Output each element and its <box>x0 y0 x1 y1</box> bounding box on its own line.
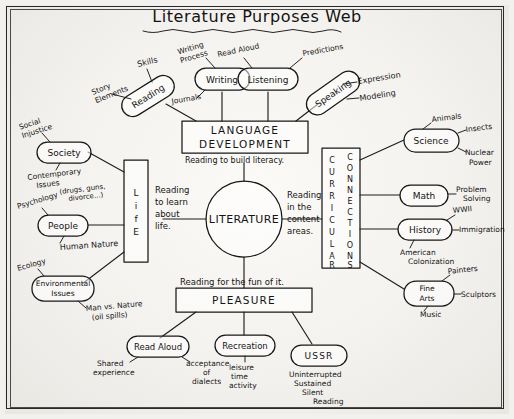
hub-pleasure-label: PLEASURE <box>212 294 276 306</box>
edge-history-wwii <box>447 215 455 220</box>
sat-journals: Journals <box>170 92 202 106</box>
hub-curricular-i: I <box>331 204 333 213</box>
edge-pleasure-read-aloud <box>160 312 196 338</box>
hub-connections-c: C <box>347 153 353 162</box>
hub-life[interactable] <box>124 160 148 262</box>
link-label-curricular-line3: content <box>287 214 320 224</box>
link-label-life-line3: about <box>155 209 180 219</box>
sat-acceptance-line1: acceptance <box>186 359 230 368</box>
sat-contemporary-line2: Issues <box>36 178 60 190</box>
sat-acceptance-line2: of <box>203 368 211 377</box>
hub-connections-o2: O <box>347 241 353 250</box>
hub-curricular-c1: C <box>329 156 335 165</box>
node-fine-arts-label-line1: Fine <box>419 284 435 293</box>
node-math[interactable]: Math <box>400 185 448 206</box>
page-title: Literature Purposes Web <box>152 7 362 26</box>
edge-history-american-colonization <box>410 240 414 248</box>
hub-curricular-connections[interactable] <box>322 148 360 268</box>
edge-read-aloud-shared-experience <box>130 357 138 362</box>
sat-ussr-line2: Sustained <box>294 379 331 388</box>
node-listening[interactable]: Listening <box>238 68 298 90</box>
sat-modeling: Modeling <box>359 88 396 103</box>
node-ussr[interactable]: USSR <box>291 345 347 366</box>
sat-shared-line2: experience <box>93 368 135 377</box>
link-label-life-line1: Reading <box>155 185 190 195</box>
sat-nuclear-line1: Nuclear <box>465 148 495 157</box>
sat-leisure-line3: activity <box>229 381 257 390</box>
hub-connections-n2: N <box>347 186 353 195</box>
node-science[interactable]: Science <box>404 129 459 152</box>
hub-connections-n1: N <box>347 175 353 184</box>
sat-shared-line1: Shared <box>97 359 124 368</box>
hub-connections-s: S <box>347 261 352 270</box>
edge-science-insects <box>458 130 466 133</box>
link-label-life-line2: to learn <box>155 197 188 207</box>
node-read-aloud[interactable]: Read Aloud <box>127 336 189 357</box>
edge-science-animals <box>423 123 431 129</box>
node-society-label: Society <box>47 148 81 158</box>
concept-map-page: Literature Purposes Web LITERATURE LANGU… <box>0 0 514 419</box>
sat-american-line2: Colonization <box>408 257 454 266</box>
hub-life-label-l: L <box>133 188 138 198</box>
node-recreation-label: Recreation <box>222 341 267 351</box>
sat-nuclear-line2: Power <box>469 158 493 167</box>
edge-speaking-modeling <box>347 98 359 99</box>
link-label-curricular-line1: Reading <box>287 190 322 200</box>
hub-curricular-c2: C <box>329 216 335 225</box>
link-label-curricular-line4: areas. <box>287 226 313 236</box>
hub-language-label-line2: DEVELOPMENT <box>199 138 291 150</box>
edge-curricular-fine-arts <box>360 262 404 289</box>
node-recreation[interactable]: Recreation <box>215 335 275 356</box>
node-people[interactable]: People <box>38 215 88 236</box>
sat-read-aloud-top: Read Aloud <box>217 41 261 59</box>
sat-problem-line1: Problem <box>456 185 487 194</box>
node-reading[interactable]: Reading <box>118 71 179 120</box>
node-read-aloud-label: Read Aloud <box>134 342 182 352</box>
sat-human-nature: Human Nature <box>60 239 119 252</box>
sat-expression: Expression <box>357 70 401 86</box>
sat-sculptors: Sculptors <box>461 290 496 299</box>
hub-curricular-a: A <box>329 252 335 261</box>
edge-writing-process <box>206 58 215 68</box>
node-science-label: Science <box>414 136 449 146</box>
sat-american-line1: American <box>400 248 436 257</box>
center-node-label: LITERATURE <box>209 213 279 226</box>
sat-wwii: WWII <box>452 204 472 215</box>
edge-listening-predictions <box>290 58 302 68</box>
sat-ecology: Ecology <box>16 256 47 273</box>
sat-problem-line2: Solving <box>463 194 491 203</box>
sat-music: Music <box>420 310 441 319</box>
hub-connections-n3: N <box>347 252 353 261</box>
sat-animals: Animals <box>431 111 462 124</box>
edge-environmental-ecology <box>38 269 44 276</box>
sat-man-vs-nature-line2: (oil spills) <box>91 310 128 322</box>
link-label-pleasure: Reading for the fun of it. <box>180 277 284 287</box>
hub-connections-c2: C <box>347 208 353 217</box>
node-ussr-label: USSR <box>304 351 333 361</box>
node-environmental-issues[interactable]: Environmental Issues <box>32 276 94 301</box>
sat-immigration: Immigration <box>459 225 505 234</box>
node-listening-label: Listening <box>248 75 289 85</box>
sat-predictions: Predictions <box>302 42 344 58</box>
node-writing-label: Writing <box>206 75 238 85</box>
link-label-language: Reading to build literacy. <box>185 156 284 165</box>
sat-skills: Skills <box>136 55 158 69</box>
node-environmental-label-line1: Environmental <box>36 279 91 288</box>
edge-reading-skills <box>147 69 152 82</box>
node-society[interactable]: Society <box>37 142 91 163</box>
hub-curricular-u: U <box>329 168 335 177</box>
sat-psychology: Psychology <box>16 190 59 211</box>
node-environmental-label-line2: Issues <box>51 289 74 298</box>
hub-curricular-l: L <box>330 240 335 249</box>
edge-listening-read-aloud <box>244 58 252 68</box>
title-underline <box>143 30 341 33</box>
sat-ussr-line1: Uninterrupted <box>289 370 342 379</box>
node-history[interactable]: History <box>398 219 452 240</box>
edge-life-society <box>88 152 124 172</box>
node-speaking[interactable]: Speaking <box>302 67 364 119</box>
hub-curricular-r2: R <box>329 192 335 201</box>
node-fine-arts[interactable]: Fine Arts <box>404 281 454 306</box>
sat-painters: Painters <box>447 264 478 276</box>
edge-pleasure-ussr <box>292 312 312 344</box>
edge-society-social-injustice <box>42 133 50 142</box>
